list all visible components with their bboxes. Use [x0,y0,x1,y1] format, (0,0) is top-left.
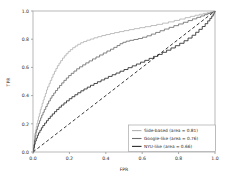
legend-label-2: NYU-like (area = 0.66) [144,144,192,149]
y-tick-label: 0.2 [22,122,29,127]
y-tick-label: 0.8 [22,37,29,42]
y-tick-label: 1.0 [22,9,29,14]
x-tick-label: 0.8 [175,156,182,161]
roc-curve-figure: 0.00.20.40.60.81.00.00.20.40.60.81.0 FPR… [0,0,230,177]
legend-label-0: Side-based (area = 0.81) [144,128,198,133]
x-tick-label: 0.6 [139,156,146,161]
x-tick-label: 0.4 [102,156,109,161]
y-tick-label: 0.0 [22,150,29,155]
x-tick-label: 0.2 [66,156,73,161]
y-tick-label: 0.6 [22,65,29,70]
x-tick-label: 1.0 [211,156,218,161]
y-tick-label: 0.4 [22,93,29,98]
roc-plot-svg: 0.00.20.40.60.81.00.00.20.40.60.81.0 FPR… [0,0,230,177]
legend-label-1: Google-like (area = 0.76) [144,136,199,141]
chart-legend: Side-based (area = 0.81)Google-like (are… [129,125,216,152]
y-axis-label: TPR [6,77,11,88]
x-tick-label: 0.0 [29,156,36,161]
x-axis-label: FPR [120,167,129,172]
